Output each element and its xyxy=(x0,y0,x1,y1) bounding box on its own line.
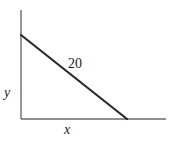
function-line xyxy=(21,35,127,119)
diagram-canvas: 20 y x xyxy=(0,0,175,141)
y-axis-label: y xyxy=(2,85,11,100)
line-label: 20 xyxy=(68,56,82,71)
x-axis-label: x xyxy=(63,122,71,137)
diagram-figure: 20 y x xyxy=(0,0,175,141)
